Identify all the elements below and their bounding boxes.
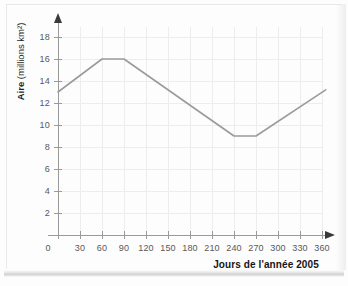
- x-axis-title: Jours de l'année 2005: [196, 259, 336, 270]
- figure-card: 18 16 14 12 10 8 6 4 2 0 30 60 90 120 15…: [0, 0, 348, 286]
- y-axis-title-rest: (millions km²): [15, 23, 26, 82]
- data-series-line: [0, 0, 348, 286]
- y-axis-title-lead: Aire: [15, 82, 26, 100]
- plot-area: 18 16 14 12 10 8 6 4 2 0 30 60 90 120 15…: [0, 0, 348, 286]
- y-axis-title: Aire (millions km²): [15, 2, 26, 122]
